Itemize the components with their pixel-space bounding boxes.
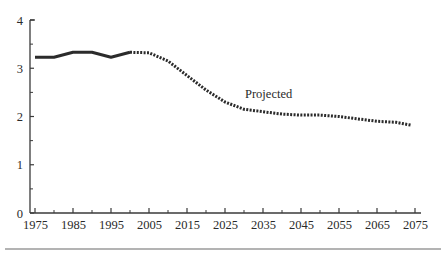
- x-tick-label: 2025: [213, 218, 238, 232]
- x-tick-label: 1995: [99, 218, 124, 232]
- projected-label: Projected: [245, 87, 293, 101]
- x-tick-label: 2065: [365, 218, 390, 232]
- x-tick-label: 2045: [289, 218, 314, 232]
- y-tick-label: 3: [17, 62, 23, 76]
- x-tick-label: 2055: [327, 218, 352, 232]
- chart-axes: 0123419751985199520052015202520352045205…: [17, 14, 428, 233]
- series-historical: [35, 52, 130, 57]
- chart-annotations: Projected: [245, 87, 293, 101]
- chart-series: [35, 52, 411, 125]
- x-tick-label: 2015: [175, 218, 200, 232]
- line-chart: 0123419751985199520052015202520352045205…: [0, 0, 446, 256]
- x-tick-label: 2005: [137, 218, 162, 232]
- y-tick-label: 4: [17, 14, 24, 28]
- x-tick-label: 2035: [251, 218, 276, 232]
- y-tick-label: 1: [17, 158, 23, 172]
- x-tick-label: 2075: [403, 218, 428, 232]
- y-tick-label: 2: [17, 110, 23, 124]
- x-tick-label: 1985: [61, 218, 86, 232]
- x-tick-label: 1975: [23, 218, 48, 232]
